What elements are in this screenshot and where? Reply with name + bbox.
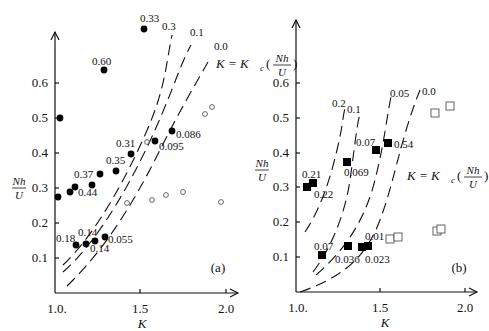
y-axis-label-a: Nh U — [12, 175, 26, 201]
point-labels-a: 0.60 0.33 0.44 0.37 0.35 0.31 0.095 0.08… — [56, 12, 201, 254]
svg-text:0.5: 0.5 — [273, 110, 289, 125]
svg-text:0.54: 0.54 — [394, 138, 414, 150]
svg-text:0.023: 0.023 — [365, 253, 390, 265]
svg-text:0.07: 0.07 — [314, 240, 334, 252]
open-points-a — [125, 105, 224, 206]
svg-text:2.0: 2.0 — [457, 300, 473, 315]
x-axis-label-b: K — [380, 315, 391, 330]
svg-text:0.1: 0.1 — [273, 249, 289, 264]
curve-label-b-0.2: 0.2 — [332, 97, 346, 109]
svg-text:0.6: 0.6 — [32, 75, 49, 90]
svg-text:0.35: 0.35 — [106, 154, 126, 166]
svg-text:): ) — [293, 56, 297, 71]
svg-text:0.21: 0.21 — [302, 168, 321, 180]
svg-text:0.069: 0.069 — [344, 166, 369, 178]
svg-text:0.31: 0.31 — [116, 137, 135, 149]
svg-text:1.5: 1.5 — [132, 301, 148, 316]
curve-label-a-0.0: 0.0 — [214, 40, 228, 52]
svg-text:Nh: Nh — [275, 52, 289, 64]
svg-text:(: ( — [457, 168, 461, 183]
svg-text:2.0: 2.0 — [218, 301, 234, 316]
svg-text:K = K: K = K — [215, 56, 250, 71]
svg-text:): ) — [484, 168, 488, 183]
curve-label-b-0.1: 0.1 — [347, 103, 361, 115]
svg-text:0.33: 0.33 — [140, 12, 160, 24]
svg-text:0.086: 0.086 — [176, 128, 201, 140]
svg-text:0.60: 0.60 — [92, 55, 112, 67]
svg-text:U: U — [258, 171, 267, 183]
svg-text:0.6: 0.6 — [273, 75, 290, 90]
svg-text:0.036: 0.036 — [335, 253, 360, 265]
svg-text:0.01: 0.01 — [365, 230, 384, 242]
svg-text:Nh: Nh — [12, 175, 26, 187]
svg-text:Nh: Nh — [255, 157, 269, 169]
svg-text:1.0.: 1.0. — [47, 301, 67, 316]
y-axis-label-b: Nh U — [255, 157, 269, 183]
svg-text:c: c — [260, 63, 264, 73]
svg-text:0.14: 0.14 — [90, 242, 110, 254]
panel-b: 0.1 0.2 0.3 0.4 0.5 0.6 1.0. 1.5 2.0 K N… — [255, 20, 489, 330]
svg-text:0.4: 0.4 — [32, 145, 49, 160]
svg-text:0.14: 0.14 — [78, 226, 98, 238]
svg-text:0.4: 0.4 — [273, 145, 290, 160]
curve-label-b-0.0: 0.0 — [422, 85, 436, 97]
curve-label-a-0.3: 0.3 — [162, 20, 176, 32]
svg-text:1.5: 1.5 — [372, 300, 388, 315]
point-labels-b: 0.21 0.22 0.069 0.07 0.54 0.07 0.036 0.0… — [302, 136, 414, 265]
svg-text:0.37: 0.37 — [74, 168, 94, 180]
panel-label-b: (b) — [451, 260, 466, 275]
svg-text:K = K: K = K — [406, 168, 441, 183]
svg-text:U: U — [15, 189, 24, 201]
svg-text:0.2: 0.2 — [273, 214, 289, 229]
curve-label-b-0.05: 0.05 — [390, 87, 410, 99]
svg-text:0.44: 0.44 — [78, 186, 98, 198]
svg-text:c: c — [451, 175, 455, 185]
svg-text:0.5: 0.5 — [32, 110, 48, 125]
x-axis-label-a: K — [137, 316, 148, 331]
svg-text:0.1: 0.1 — [32, 250, 48, 265]
svg-text:0.3: 0.3 — [273, 179, 289, 194]
svg-text:U: U — [469, 178, 478, 190]
figure: 0.1 0.2 0.3 0.4 0.5 0.6 1.0. 1.5 2.0 K N… — [0, 0, 489, 331]
panel-label-a: (a) — [211, 260, 225, 275]
curve-label-a-0.1: 0.1 — [190, 26, 204, 38]
svg-text:0.095: 0.095 — [159, 140, 184, 152]
filled-points-a — [55, 26, 176, 249]
svg-text:1.0.: 1.0. — [288, 300, 308, 315]
svg-text:(: ( — [266, 56, 270, 71]
svg-text:0.3: 0.3 — [32, 180, 48, 195]
svg-text:Nh: Nh — [466, 164, 480, 176]
svg-text:0.22: 0.22 — [314, 188, 333, 200]
svg-text:0.055: 0.055 — [108, 233, 133, 245]
formula-b: K = K c ( Nh U ) — [406, 164, 488, 190]
panel-a: 0.1 0.2 0.3 0.4 0.5 0.6 1.0. 1.5 2.0 K N… — [12, 12, 298, 331]
svg-text:0.07: 0.07 — [356, 136, 376, 148]
svg-text:0.18: 0.18 — [56, 232, 76, 244]
svg-text:0.2: 0.2 — [32, 215, 48, 230]
